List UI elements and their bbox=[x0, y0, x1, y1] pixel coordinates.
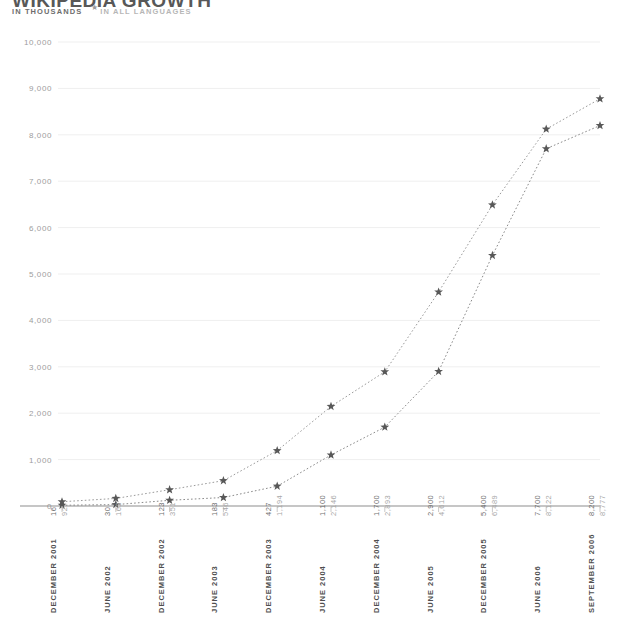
series-line-series-b bbox=[62, 99, 600, 502]
y-axis-tick-label: 9,000 bbox=[29, 84, 52, 93]
data-point-marker bbox=[273, 482, 282, 490]
x-axis-value-label-b: 546 bbox=[221, 502, 230, 516]
x-axis-value-label-a: 2,900 bbox=[426, 495, 435, 516]
data-point-marker bbox=[542, 125, 551, 133]
x-axis-value-label-a: 8,200 bbox=[587, 495, 596, 516]
growth-line-chart: 01,0002,0003,0004,0005,0006,0007,0008,00… bbox=[0, 0, 620, 622]
x-axis-value-label-b: 351 bbox=[168, 502, 177, 516]
x-axis-value-label-a: 1,100 bbox=[318, 495, 327, 516]
y-axis-tick-label: 4,000 bbox=[29, 316, 52, 325]
data-point-marker bbox=[219, 476, 228, 484]
x-axis-category-label: JUNE 2004 bbox=[318, 565, 327, 613]
x-axis-value-label-a: 123 bbox=[157, 502, 166, 516]
data-point-marker bbox=[434, 287, 443, 295]
x-axis-value-label-b: 8,122 bbox=[544, 495, 553, 516]
data-point-marker bbox=[596, 94, 605, 102]
x-axis-category-label: JUNE 2005 bbox=[426, 565, 435, 613]
series-line-series-a bbox=[62, 126, 600, 506]
plot-area: 01,0002,0003,0004,0005,0006,0007,0008,00… bbox=[0, 0, 620, 622]
x-axis-category-label: DECEMBER 2003 bbox=[264, 538, 273, 613]
x-axis-value-label-a: 7,700 bbox=[533, 495, 542, 516]
x-axis-value-label-b: 2,893 bbox=[383, 495, 392, 516]
y-axis-tick-label: 10,000 bbox=[24, 38, 52, 47]
y-axis-tick-label: 1,000 bbox=[29, 456, 52, 465]
x-axis-category-label: DECEMBER 2001 bbox=[49, 538, 58, 613]
data-point-marker bbox=[488, 251, 497, 259]
data-point-marker bbox=[488, 200, 497, 208]
y-axis-tick-label: 2,000 bbox=[29, 409, 52, 418]
x-axis-value-label-a: 5,400 bbox=[479, 495, 488, 516]
x-axis-category-label: DECEMBER 2004 bbox=[372, 538, 381, 613]
x-axis-value-label-a: 427 bbox=[264, 502, 273, 516]
x-axis-category-label: DECEMBER 2002 bbox=[157, 538, 166, 613]
data-point-marker bbox=[542, 144, 551, 152]
y-axis-tick-label: 6,000 bbox=[29, 224, 52, 233]
data-point-marker bbox=[273, 446, 282, 454]
x-axis-category-label: JUNE 2002 bbox=[103, 565, 112, 613]
y-axis-tick-label: 5,000 bbox=[29, 270, 52, 279]
y-axis-tick-label: 3,000 bbox=[29, 363, 52, 372]
x-axis-value-label-b: 163 bbox=[114, 502, 123, 516]
x-axis-value-label-a: 16 bbox=[49, 507, 58, 516]
x-axis-value-label-a: 183 bbox=[210, 502, 219, 516]
data-point-marker bbox=[327, 450, 336, 458]
x-axis-value-label-a: 1,700 bbox=[372, 495, 381, 516]
data-point-marker bbox=[434, 367, 443, 375]
x-axis-category-label: SEPTEMBER 2006 bbox=[587, 534, 596, 613]
data-point-marker bbox=[380, 423, 389, 431]
x-axis-category-label: DECEMBER 2005 bbox=[479, 538, 488, 613]
x-axis-category-label: JUNE 2006 bbox=[533, 565, 542, 613]
y-axis-tick-label: 7,000 bbox=[29, 177, 52, 186]
x-axis-value-label-b: 8,777 bbox=[598, 495, 607, 516]
chart-page: WIKIPEDIA GROWTH IN THOUSANDS ★ IN ALL L… bbox=[0, 0, 620, 622]
data-point-marker bbox=[596, 121, 605, 129]
x-axis-value-label-b: 92 bbox=[60, 507, 69, 516]
x-axis-value-label-a: 30 bbox=[103, 507, 112, 516]
x-axis-value-label-b: 1,194 bbox=[275, 495, 284, 516]
data-point-marker bbox=[165, 485, 174, 493]
x-axis-value-label-b: 6,489 bbox=[490, 495, 499, 516]
x-axis-value-label-b: 2,146 bbox=[329, 495, 338, 516]
data-point-marker bbox=[219, 493, 228, 501]
x-axis-category-label: JUNE 2003 bbox=[210, 565, 219, 613]
x-axis-value-label-b: 4,612 bbox=[437, 495, 446, 516]
y-axis-tick-label: 8,000 bbox=[29, 131, 52, 140]
